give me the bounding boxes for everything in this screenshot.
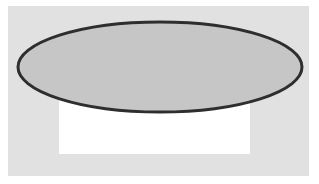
diagram-canvas xyxy=(0,0,319,184)
gray-ellipse xyxy=(18,22,302,112)
shapes-layer xyxy=(0,0,319,184)
